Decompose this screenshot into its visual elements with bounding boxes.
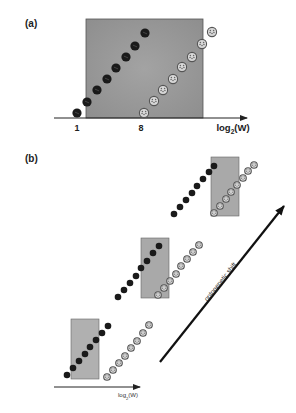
- light-dot: [168, 74, 177, 83]
- light-dot: [211, 210, 218, 217]
- panel-a-label: (a): [25, 18, 37, 29]
- dark-dot: [93, 337, 100, 344]
- light-dot: [240, 175, 247, 182]
- dark-dot: [189, 190, 196, 197]
- dark-dot: [171, 211, 178, 218]
- panel-a-tick-labels: 18: [74, 123, 143, 133]
- dark-dot: [70, 365, 77, 372]
- dark-dot: [133, 273, 140, 280]
- dark-dot: [121, 287, 128, 294]
- dark-dot: [115, 294, 122, 301]
- dark-dot: [144, 258, 151, 265]
- ontogenetic-shift-label: ontogenetic shift: [203, 261, 239, 303]
- light-dot: [128, 345, 135, 352]
- panel-b: (b) log2(W) ontogenetic shift: [25, 153, 284, 401]
- dark-dot: [150, 250, 157, 257]
- light-dot: [104, 374, 111, 381]
- light-dot: [149, 96, 158, 105]
- panel-a-axis-label: log2(W): [216, 122, 249, 135]
- tick-label: 1: [74, 123, 79, 133]
- light-dot: [217, 203, 224, 210]
- dark-dot: [76, 358, 83, 365]
- light-dot: [139, 108, 148, 117]
- dark-dot: [82, 351, 89, 358]
- light-dot: [167, 278, 174, 285]
- light-dot: [197, 39, 206, 48]
- dark-dot: [99, 330, 106, 337]
- dark-dot: [206, 169, 213, 176]
- dark-dot: [194, 183, 201, 190]
- light-dot: [184, 256, 191, 263]
- light-dot: [134, 338, 141, 345]
- group-middle: [115, 238, 203, 300]
- light-dot: [158, 85, 167, 94]
- light-dot: [177, 62, 186, 71]
- dark-dot: [156, 243, 163, 250]
- light-dot: [155, 292, 162, 299]
- dark-dot: [87, 344, 94, 351]
- light-dot: [146, 322, 153, 329]
- panel-b-axis-label: log2(W): [118, 392, 138, 401]
- light-dot: [178, 263, 185, 270]
- light-dot: [190, 249, 197, 256]
- light-dot: [187, 52, 196, 61]
- figure-svg: (a) 18 log2(W) (b) log2(W) ontogenetic s…: [0, 0, 296, 413]
- light-dot: [116, 360, 123, 367]
- dark-dot: [127, 280, 134, 287]
- light-dot: [140, 330, 147, 337]
- light-dot: [234, 182, 241, 189]
- dark-dot: [177, 204, 184, 211]
- panel-b-label: (b): [25, 153, 38, 164]
- group-bottom: [64, 319, 153, 380]
- dark-dot: [183, 197, 190, 204]
- tick-label: 8: [138, 123, 143, 133]
- light-dot: [110, 367, 117, 374]
- light-dot: [196, 242, 203, 249]
- light-dot: [207, 27, 216, 36]
- light-dot: [173, 271, 180, 278]
- light-dot: [122, 353, 129, 360]
- light-dot: [228, 189, 235, 196]
- dark-dot: [211, 163, 218, 170]
- light-dot: [161, 285, 168, 292]
- light-dot: [251, 162, 258, 169]
- dark-dot: [105, 323, 112, 330]
- light-dot: [245, 168, 252, 175]
- dark-dot: [200, 176, 207, 183]
- dark-dot: [64, 372, 71, 379]
- dark-dot: [138, 265, 145, 272]
- group-top: [171, 157, 258, 217]
- panel-a: (a) 18 log2(W): [25, 18, 250, 135]
- light-dot: [223, 196, 230, 203]
